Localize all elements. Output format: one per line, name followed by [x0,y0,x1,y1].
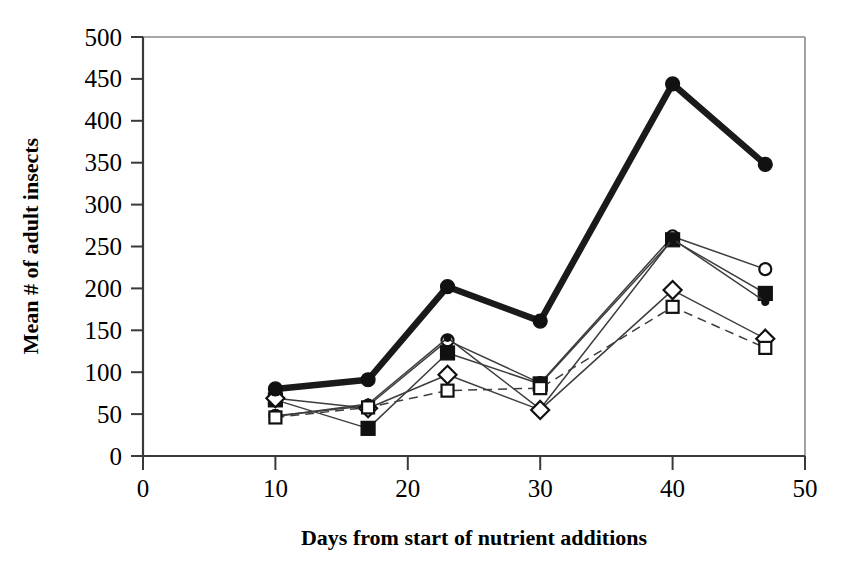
series-line-series-6-open-square [275,307,765,418]
data-point-filled-circle [441,280,455,294]
data-point-filled-circle [361,373,375,387]
data-point-small-filled-dot [762,298,769,305]
series-layer [266,77,774,435]
y-tick-label: 250 [85,233,123,260]
x-tick-label: 0 [137,475,150,502]
x-axis-tick-labels: 0 10 20 30 40 50 [137,475,818,502]
data-point-filled-circle [268,382,282,396]
series-series-1-thick-filled-circle [268,77,772,396]
x-axis-ticks [143,456,805,470]
data-point-filled-circle [758,157,772,171]
y-tick-label: 50 [97,401,122,428]
data-point-filled-circle [666,77,680,91]
data-point-open-diamond [439,366,457,384]
y-tick-label: 300 [85,191,123,218]
data-point-small-filled-dot [444,334,451,341]
x-tick-label: 30 [528,475,553,502]
data-point-open-square [442,385,454,397]
y-tick-label: 450 [85,65,123,92]
series-line-series-3-filled-square [275,240,765,429]
x-tick-label: 40 [660,475,685,502]
series-line-series-5-open-diamond [275,290,765,410]
x-tick-label: 20 [395,475,420,502]
series-line-series-1-thick-filled-circle [275,84,765,389]
x-tick-label: 50 [793,475,818,502]
y-tick-label: 500 [85,24,123,51]
data-point-filled-square [441,346,455,360]
series-line-series-4-small-filled-dot [275,239,765,417]
y-axis-ticks [131,37,143,456]
y-tick-label: 0 [110,443,123,470]
series-series-4-small-filled-dot [272,235,769,420]
data-point-open-square [534,382,546,394]
plot-frame [143,37,805,456]
data-point-open-square [362,401,374,413]
y-tick-label: 100 [85,359,123,386]
data-point-open-square [667,301,679,313]
line-chart: 0 50 100 150 200 250 300 350 400 450 500… [0,0,860,566]
y-axis-tick-labels: 0 50 100 150 200 250 300 350 400 450 500 [85,24,123,470]
data-point-open-square [759,342,771,354]
data-point-open-square [269,411,281,423]
y-tick-label: 400 [85,107,123,134]
data-point-small-filled-dot [669,235,676,242]
y-tick-label: 200 [85,275,123,302]
y-axis-title: Mean # of adult insects [18,137,43,354]
data-point-filled-square [361,421,375,435]
data-point-open-circle [759,263,771,275]
y-tick-label: 350 [85,149,123,176]
series-series-5-open-diamond [266,281,774,419]
y-tick-label: 150 [85,317,123,344]
chart-figure: 0 50 100 150 200 250 300 350 400 450 500… [0,0,860,566]
x-axis-title: Days from start of nutrient additions [301,525,648,550]
x-tick-label: 10 [263,475,288,502]
data-point-filled-circle [533,314,547,328]
